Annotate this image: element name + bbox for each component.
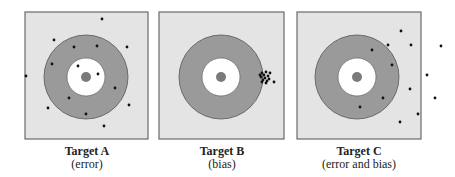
target-c-shot <box>391 64 394 67</box>
target-b-shot <box>265 82 268 85</box>
target-c-shot <box>417 113 420 116</box>
target-c-shot <box>371 49 374 52</box>
target-a-shot <box>126 46 129 49</box>
target-a-shot <box>96 45 99 48</box>
target-c-shot <box>400 30 403 33</box>
target-a-caption: Target A (error) <box>17 145 157 171</box>
target-c-shot <box>359 106 362 109</box>
target-a-shot <box>101 18 104 21</box>
target-b-shot <box>267 75 270 78</box>
target-c-bullseye <box>352 72 362 82</box>
target-a-subtitle: (error) <box>17 158 157 171</box>
target-c-subtitle: (error and bias) <box>289 158 429 171</box>
target-b-shot <box>261 72 264 75</box>
target-c-caption: Target C (error and bias) <box>289 145 429 171</box>
target-b-shot <box>263 74 266 77</box>
target-c-shot <box>387 44 390 47</box>
target-b-shot <box>268 78 271 81</box>
target-a-shot <box>51 63 54 66</box>
target-a-shot <box>114 87 117 90</box>
target-b-shot <box>259 74 262 77</box>
target-b-subtitle: (bias) <box>152 158 292 171</box>
target-b-shot <box>264 77 267 80</box>
target-b-shot <box>265 71 268 74</box>
target-b-shot <box>261 81 264 84</box>
target-c-shot <box>409 88 412 91</box>
target-b-shot <box>273 81 276 84</box>
target-c-shot <box>426 74 429 77</box>
target-a-shot <box>53 39 56 42</box>
target-c-shot <box>382 97 385 100</box>
target-a-shot <box>73 46 76 49</box>
target-a-shot <box>25 75 28 78</box>
target-b-caption: Target B (bias) <box>152 145 292 171</box>
target-a-shot <box>85 113 88 116</box>
target-c-shot <box>440 45 443 48</box>
target-b-shot <box>269 72 272 75</box>
target-a-bullseye <box>81 72 91 82</box>
target-c-shot <box>410 44 413 47</box>
target-b-bullseye <box>216 72 226 82</box>
target-c-shot <box>399 121 402 124</box>
target-a-shot <box>103 125 106 128</box>
target-c-shot <box>434 97 437 100</box>
target-a-shot <box>47 107 50 110</box>
target-a-shot <box>97 73 100 76</box>
target-a-shot <box>128 104 131 107</box>
target-a-shot <box>77 65 80 68</box>
target-a-shot <box>68 97 71 100</box>
